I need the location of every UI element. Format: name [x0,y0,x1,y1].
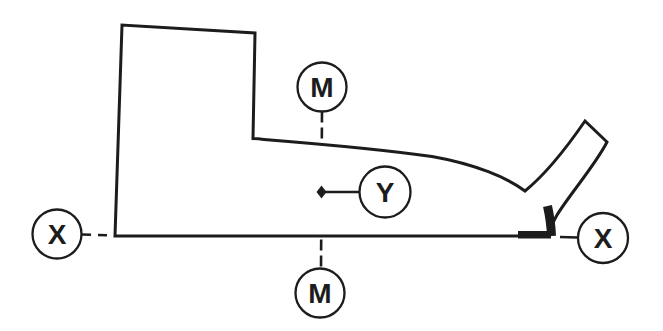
label-m-top: M [310,72,333,103]
x-axis-link-right [560,237,578,238]
figure-canvas: M M X X Y [0,0,663,331]
label-m-bottom: M [308,278,331,309]
callout-x-right: X [578,213,628,263]
diagram-svg: M M X X Y [0,0,663,331]
profile-outline [115,25,607,236]
x-axis-link-left [82,235,115,236]
label-x-right: X [594,223,613,254]
label-x-left: X [48,219,67,250]
callout-y: Y [360,167,411,218]
label-y: Y [376,177,395,208]
callout-x-left: X [33,210,82,259]
callout-m-top: M [298,63,347,112]
callout-m-bottom: M [296,269,345,318]
